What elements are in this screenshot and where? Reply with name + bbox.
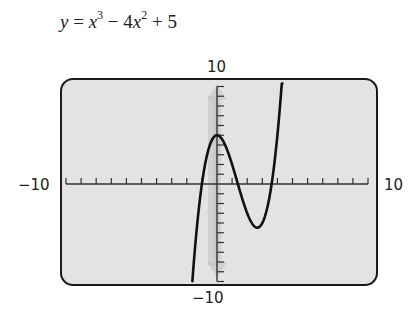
y-max-label: 10 <box>207 58 226 76</box>
graph-canvas <box>0 0 413 318</box>
x-max-label: 10 <box>384 176 403 194</box>
x-min-label: −10 <box>18 176 50 194</box>
y-min-label: −10 <box>192 289 224 307</box>
